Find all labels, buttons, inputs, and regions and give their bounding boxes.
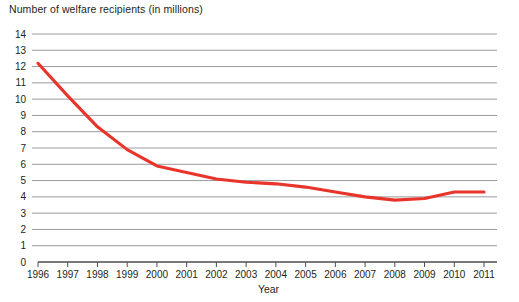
y-axis-tick-label: 13: [15, 45, 27, 56]
y-axis-tick-label: 5: [20, 175, 26, 186]
y-axis-tick-label: 9: [20, 110, 26, 121]
y-axis-tick-label: 14: [15, 29, 27, 40]
y-axis-tick-label: 3: [20, 208, 26, 219]
y-axis-tick-label: 6: [20, 159, 26, 170]
x-axis-tick-label: 2004: [265, 269, 288, 280]
x-axis-tick-label: 1996: [27, 269, 50, 280]
gridlines-group: [32, 34, 497, 246]
y-axis-tick-label: 4: [20, 191, 26, 202]
y-axis-tick-label: 2: [20, 224, 26, 235]
x-axis-tick-label: 2000: [146, 269, 169, 280]
x-axis-tick-label: 2011: [473, 269, 495, 280]
x-axis-tick-label: 2005: [294, 269, 317, 280]
y-axis-tick-label: 12: [15, 61, 27, 72]
y-axis-tick-label: 0: [20, 257, 26, 268]
x-axis-tick-label: 2001: [176, 269, 199, 280]
x-axis-tick-label: 2002: [205, 269, 228, 280]
x-axis-tick-label: 2009: [413, 269, 436, 280]
y-axis-tick-label: 1: [20, 240, 26, 251]
y-axis-tick-label: 7: [20, 143, 26, 154]
x-axis-title: Year: [0, 283, 519, 295]
x-axis-tick-label: 2003: [235, 269, 258, 280]
x-axis-tick-label: 2008: [384, 269, 407, 280]
chart-plot-area: 01234567891011121314 1996199719981999200…: [0, 0, 519, 302]
x-axis-tick-label: 2006: [324, 269, 347, 280]
x-axis-tick-label: 2007: [354, 269, 377, 280]
y-axis-tick-label: 11: [16, 77, 27, 88]
x-axis-tick-labels: 1996199719981999200020012002200320042005…: [27, 269, 495, 280]
y-axis-tick-label: 8: [20, 126, 26, 137]
y-axis-tick-label: 10: [15, 94, 27, 105]
x-axis-tick-marks: [38, 262, 484, 267]
x-axis-title-text: Year: [258, 283, 279, 295]
welfare-recipients-line-chart: Number of welfare recipients (in million…: [0, 0, 519, 302]
x-axis-tick-label: 1999: [116, 269, 139, 280]
x-axis-tick-label: 1998: [86, 269, 109, 280]
x-axis-tick-label: 2010: [443, 269, 466, 280]
y-axis-tick-labels: 01234567891011121314: [15, 29, 27, 268]
x-axis-tick-label: 1997: [57, 269, 80, 280]
